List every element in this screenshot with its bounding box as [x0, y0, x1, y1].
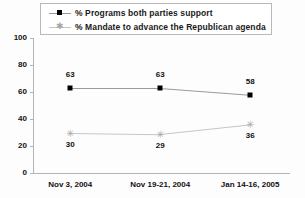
y-tick-label: 100 — [2, 33, 27, 43]
data-point-marker — [158, 85, 163, 90]
square-marker-icon — [49, 8, 71, 18]
series-line-segment — [70, 88, 160, 89]
legend-label-mandate: % Mandate to advance the Republican agen… — [75, 22, 266, 32]
y-tick-mark — [30, 173, 33, 174]
y-tick-label: 20 — [2, 141, 27, 151]
x-axis-label: Nov 3, 2004 — [48, 180, 92, 189]
x-axis-label: Jan 14-16, 2005 — [221, 180, 280, 189]
data-point-label: 63 — [156, 70, 165, 79]
series-line-segment — [160, 88, 250, 96]
x-axis-line — [33, 173, 290, 174]
data-point-label: 30 — [66, 140, 75, 149]
chart-legend: % Programs both parties support ✱ % Mand… — [40, 3, 272, 35]
data-point-marker: ✳ — [246, 120, 255, 129]
legend-item-mandate: ✱ % Mandate to advance the Republican ag… — [49, 20, 266, 34]
y-tick-label: 40 — [2, 114, 27, 124]
data-point-label: 36 — [246, 131, 255, 140]
plot-area: 636358✳30✳29✳36 — [33, 38, 290, 173]
data-point-label: 58 — [246, 77, 255, 86]
data-point-marker: ✳ — [156, 129, 165, 138]
y-tick-label: 60 — [2, 87, 27, 97]
line-chart: % Programs both parties support ✱ % Mand… — [0, 0, 305, 198]
data-point-marker: ✳ — [66, 128, 75, 137]
y-tick-label: 0 — [2, 168, 27, 178]
data-point-label: 63 — [66, 70, 75, 79]
x-axis-label: Nov 19-21, 2004 — [130, 180, 190, 189]
asterisk-marker-icon: ✱ — [49, 22, 71, 32]
y-tick-label: 80 — [2, 60, 27, 70]
data-point-label: 29 — [156, 141, 165, 150]
series-line-segment — [160, 124, 250, 134]
legend-label-programs: % Programs both parties support — [75, 8, 213, 18]
series-line-segment — [70, 133, 160, 135]
data-point-marker — [68, 85, 73, 90]
legend-item-programs: % Programs both parties support — [49, 6, 213, 20]
data-point-marker — [248, 92, 253, 97]
